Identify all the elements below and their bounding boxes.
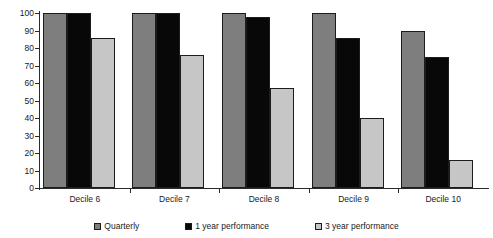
bar-one-year — [336, 38, 360, 189]
x-axis-tick-mark — [398, 188, 399, 193]
bar-one-year — [425, 57, 449, 188]
y-axis-tick-labels: 0102030405060708090100 — [0, 0, 34, 238]
bar-group — [43, 13, 115, 188]
legend-swatch-quarterly — [94, 223, 101, 230]
bar-quarterly — [43, 13, 67, 188]
legend-label: 1 year performance — [195, 222, 269, 231]
bar-group — [401, 13, 473, 188]
legend-label: 3 year performance — [325, 222, 399, 231]
x-axis-tick-mark — [309, 188, 310, 193]
bar-quarterly — [401, 31, 425, 189]
y-axis-tick-label: 20 — [25, 149, 34, 158]
legend-item[interactable]: 3 year performance — [315, 222, 399, 231]
bar-quarterly — [312, 13, 336, 188]
bar-one-year — [156, 13, 180, 188]
x-axis-line — [39, 188, 489, 189]
bar-quarterly — [132, 13, 156, 188]
x-axis-category-label: Decile 9 — [309, 195, 399, 204]
y-axis-tick-label: 100 — [20, 9, 34, 18]
bar-three-year — [270, 88, 294, 188]
y-axis-tick-label: 10 — [25, 166, 34, 175]
bar-group — [312, 13, 384, 188]
y-axis-tick-label: 0 — [29, 184, 34, 193]
y-axis-tick-label: 70 — [25, 61, 34, 70]
legend-item[interactable]: 1 year performance — [185, 222, 269, 231]
chart-legend: Quarterly1 year performance3 year perfor… — [0, 219, 493, 233]
bar-three-year — [91, 38, 115, 189]
x-axis-category-label: Decile 8 — [219, 195, 309, 204]
x-axis-tick-mark — [130, 188, 131, 193]
y-axis-tick-label: 30 — [25, 131, 34, 140]
x-axis-category-label: Decile 7 — [130, 195, 220, 204]
y-axis-tick-label: 40 — [25, 114, 34, 123]
bar-chart: 0102030405060708090100 Decile 6Decile 7D… — [0, 0, 493, 238]
plot-area — [40, 13, 488, 188]
bar-three-year — [180, 55, 204, 188]
legend-swatch-three-year — [315, 223, 322, 230]
x-axis-category-label: Decile 6 — [40, 195, 130, 204]
bar-one-year — [246, 17, 270, 189]
bar-one-year — [67, 13, 91, 188]
y-axis-tick-label: 80 — [25, 44, 34, 53]
bar-group — [222, 13, 294, 188]
legend-item[interactable]: Quarterly — [94, 222, 139, 231]
y-axis-tick-label: 90 — [25, 26, 34, 35]
y-axis-tick-label: 60 — [25, 79, 34, 88]
x-axis-category-label: Decile 10 — [398, 195, 488, 204]
x-axis-tick-mark — [219, 188, 220, 193]
bar-quarterly — [222, 13, 246, 188]
legend-label: Quarterly — [104, 222, 139, 231]
bar-three-year — [360, 118, 384, 188]
bar-group — [132, 13, 204, 188]
legend-swatch-one-year — [185, 223, 192, 230]
y-axis-tick-label: 50 — [25, 96, 34, 105]
bar-three-year — [449, 160, 473, 188]
